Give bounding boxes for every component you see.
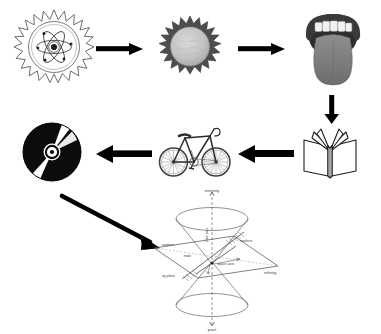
light-cone-label-space-axis: space axis	[217, 262, 234, 266]
atom-starburst-icon	[14, 8, 94, 86]
arrow-sun-to-mouth	[238, 39, 286, 59]
mouth-tongue-icon	[304, 8, 362, 90]
arrow-book-to-bicycle	[238, 143, 294, 165]
open-book-icon	[302, 126, 358, 180]
light-cone-label-nowhere-left: nowhere	[162, 243, 174, 247]
light-cone-label-infinity: infinity	[264, 270, 277, 275]
light-cone-label-past: past	[208, 327, 217, 332]
light-cone-label-now: now	[184, 253, 191, 258]
diagram-canvas: eternity past infinity now space axis ti…	[0, 0, 381, 334]
bicycle-icon	[158, 120, 232, 180]
arrow-atom-to-sun	[96, 39, 144, 59]
sun-icon	[158, 16, 222, 78]
light-cone-diagram: eternity past infinity now space axis ti…	[148, 186, 284, 332]
light-cone-label-nowhere-right: nowhere	[240, 239, 252, 243]
light-cone-label-xy-plane: xy-plane	[162, 274, 175, 278]
light-cone-label-eternity: eternity	[205, 188, 220, 193]
compact-disc-icon	[22, 122, 82, 182]
arrow-bicycle-to-cd	[96, 143, 152, 165]
arrow-mouth-to-book	[322, 95, 342, 125]
light-cone-label-time-axis: time axis	[205, 228, 209, 242]
